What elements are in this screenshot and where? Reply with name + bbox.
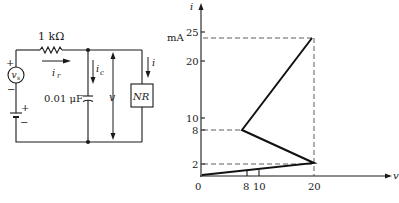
nr-device-label: NR	[132, 91, 150, 102]
y-tick-label-20: 20	[186, 56, 199, 67]
y-tick-label-8: 8	[192, 125, 198, 136]
iv-curve	[202, 38, 314, 175]
node-top	[86, 48, 90, 52]
x-axis-label: v	[393, 170, 399, 181]
source-minus: −	[7, 84, 15, 95]
resistor-icon	[40, 47, 62, 53]
capacitor-icon	[83, 96, 93, 102]
current-ic-arrow	[91, 60, 96, 84]
x-axis-arrow-icon	[385, 174, 392, 179]
origin-label: 0	[195, 181, 201, 192]
y-tick-label-25: 25	[186, 27, 199, 38]
current-i-label: i	[152, 57, 155, 68]
y-tick-label-2: 2	[192, 159, 198, 170]
current-ir-label: i	[52, 67, 55, 78]
y-axis-label: i	[190, 1, 193, 12]
x-tick-label-8: 8	[243, 181, 249, 192]
wire-left-bottom	[16, 117, 142, 142]
node-bottom	[86, 140, 90, 144]
current-ic-sub: c	[100, 69, 104, 77]
x-tick-label-10: 10	[253, 181, 266, 192]
battery-minus: −	[20, 117, 28, 128]
battery-plus: +	[21, 102, 29, 113]
source-label: v	[12, 70, 17, 80]
iv-chart: i mA v 0 25 20 10 8 2 8 10 20	[167, 1, 399, 192]
voltage-label: v	[109, 91, 116, 104]
capacitor-label: 0.01 μF	[44, 93, 83, 104]
source-plus: +	[6, 57, 14, 68]
resistor-label: 1 kΩ	[38, 30, 64, 43]
y-axis-arrow-icon	[199, 3, 204, 10]
source-sub: s	[17, 74, 20, 81]
current-ic-label: i	[96, 63, 99, 74]
figure: v s + − + − 1 kΩ i r 0.01 μF	[0, 0, 399, 203]
circuit-diagram: v s + − + − 1 kΩ i r 0.01 μF	[6, 30, 155, 144]
x-tick-label-20: 20	[308, 181, 321, 192]
y-unit-label: mA	[167, 32, 184, 43]
current-ir-sub: r	[57, 72, 61, 80]
current-ir-arrow	[42, 59, 71, 64]
y-tick-label-10: 10	[186, 113, 199, 124]
current-i-arrow	[146, 57, 151, 78]
